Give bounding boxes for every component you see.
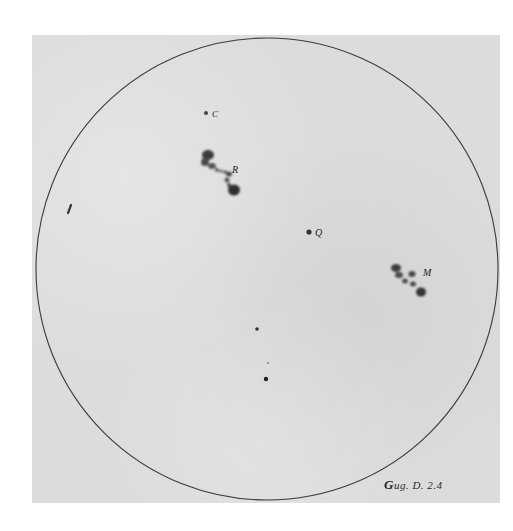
sunspot-small-2 (267, 362, 269, 364)
sunspot-q: Q (306, 227, 323, 238)
caption-inscription: Gug. D. 2.4 (384, 477, 443, 493)
label-m: M (422, 267, 432, 278)
label-r: R (231, 164, 238, 175)
solar-disk-drawing: C R Q M (0, 0, 513, 531)
sunspot-group-m (391, 264, 426, 297)
sunspot-small-1 (255, 327, 259, 331)
ink-mark (68, 205, 71, 213)
sunspot-c: C (204, 109, 219, 119)
label-q: Q (315, 227, 323, 238)
sunspot-small-3 (264, 377, 268, 381)
caption-initial: G (384, 477, 394, 492)
label-c: C (212, 109, 219, 119)
caption-text: ug. D. 2.4 (394, 479, 443, 491)
